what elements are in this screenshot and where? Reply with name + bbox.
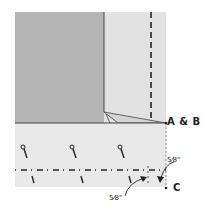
sewing-diagram	[0, 0, 204, 212]
label-point-ab: A & B	[167, 116, 201, 127]
label-point-c: C	[173, 182, 180, 193]
fabric-panel-dark	[15, 12, 104, 123]
label-seam-allowance-right: 5⁄8"	[167, 156, 180, 164]
label-seam-allowance-bottom: 5⁄8"	[109, 194, 122, 202]
fabric-strip-light	[104, 12, 166, 123]
point-c-marker	[165, 187, 168, 190]
